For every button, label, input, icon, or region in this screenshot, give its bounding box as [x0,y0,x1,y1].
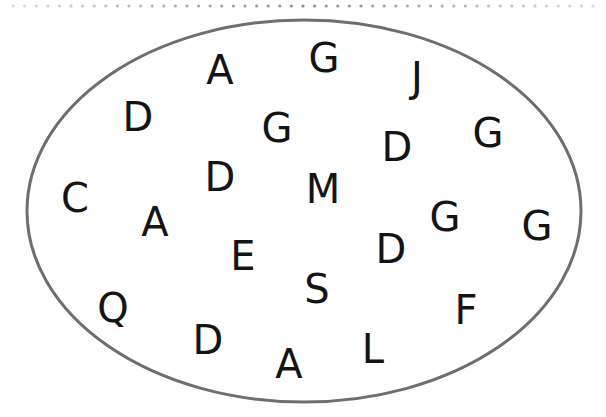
set-element-letter: G [473,113,504,153]
set-element-letter: D [123,97,154,137]
set-element-letter: C [61,178,89,218]
set-element-letter: D [193,320,224,360]
set-element-letter: A [275,344,302,384]
set-element-letter: F [454,290,477,330]
set-ellipse [27,20,581,402]
set-ellipse-diagram [0,0,606,417]
set-element-letter: D [205,157,236,197]
set-element-letter: G [430,197,461,237]
set-element-letter: G [262,108,293,148]
set-element-letter: D [382,127,413,167]
set-element-letter: G [522,206,553,246]
set-element-letter: G [309,38,340,78]
set-element-letter: L [362,329,384,369]
set-element-letter: D [376,229,407,269]
set-element-letter: E [230,236,255,276]
set-element-letter: J [411,57,423,97]
set-element-letter: S [304,269,329,309]
set-element-letter: A [141,202,168,242]
set-element-letter: M [306,169,341,209]
set-element-letter: Q [97,288,128,328]
set-element-letter: A [206,50,233,90]
